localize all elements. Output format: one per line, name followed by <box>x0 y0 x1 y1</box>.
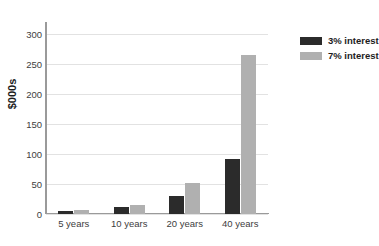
bar <box>169 196 184 214</box>
legend-item[interactable]: 7% interest <box>300 50 379 61</box>
y-tick-label: 150 <box>8 119 42 130</box>
bar-group <box>159 34 211 214</box>
y-tick-label: 200 <box>8 89 42 100</box>
bar-group <box>214 34 266 214</box>
bar <box>241 55 256 214</box>
bar-group <box>103 34 155 214</box>
y-tick-label: 300 <box>8 29 42 40</box>
bar-groups <box>46 34 268 214</box>
bar-group <box>48 34 100 214</box>
y-tick-label: 0 <box>8 209 42 220</box>
bar <box>114 207 129 214</box>
x-axis-labels: 5 years10 years20 years40 years <box>46 218 268 229</box>
x-tick-label: 20 years <box>159 218 211 229</box>
x-tick-label: 10 years <box>103 218 155 229</box>
chart-legend: 3% interest7% interest <box>300 35 379 65</box>
legend-label: 7% interest <box>328 50 379 61</box>
bar <box>185 183 200 214</box>
y-axis-ticks: 050100150200250300 <box>0 34 42 214</box>
y-tick-label: 250 <box>8 59 42 70</box>
x-tick-label: 40 years <box>214 218 266 229</box>
bar <box>74 210 89 214</box>
gridline <box>46 214 268 215</box>
legend-swatch-icon <box>300 37 322 45</box>
x-tick-label: 5 years <box>48 218 100 229</box>
legend-item[interactable]: 3% interest <box>300 35 379 46</box>
y-tick-label: 100 <box>8 149 42 160</box>
bar <box>225 159 240 214</box>
bar <box>130 205 145 214</box>
legend-label: 3% interest <box>328 35 379 46</box>
bar <box>58 211 73 214</box>
y-tick-label: 50 <box>8 179 42 190</box>
legend-swatch-icon <box>300 52 322 60</box>
